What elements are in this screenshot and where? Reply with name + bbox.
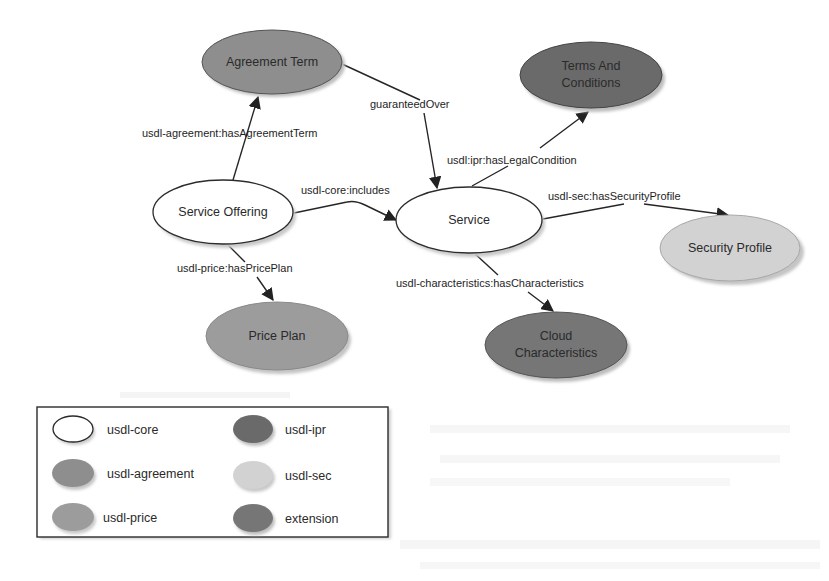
edge-label-has-agreement-term: usdl-agreement:hasAgreementTerm — [142, 127, 317, 139]
node-label-line1: Cloud — [540, 329, 573, 343]
edge-has-security-profile — [543, 204, 728, 219]
node-security-profile: Security Profile — [660, 215, 804, 285]
node-label: Price Plan — [249, 329, 306, 343]
legend-label: usdl-ipr — [285, 423, 326, 437]
edge-label-has-legal-condition: usdl:ipr:hasLegalCondition — [447, 154, 577, 166]
node-service-offering: Service Offering — [153, 180, 296, 248]
node-terms-and-conditions: Terms And Conditions — [520, 42, 665, 112]
node-label: Service — [448, 213, 490, 227]
node-label-line2: Characteristics — [515, 346, 598, 360]
node-label-line2: Conditions — [561, 76, 620, 90]
node-service: Service — [396, 187, 545, 257]
node-label: Agreement Term — [226, 55, 318, 69]
node-agreement-term: Agreement Term — [202, 30, 345, 97]
node-label-line1: Terms And — [561, 59, 620, 73]
legend-label: usdl-core — [107, 423, 158, 437]
edge-label-guaranteed-over: guaranteedOver — [370, 98, 450, 110]
edge-label-includes: usdl-core:includes — [301, 184, 390, 196]
service-model-diagram: usdl-agreement:hasAgreementTerm guarante… — [0, 0, 829, 581]
node-cloud-characteristics: Cloud Characteristics — [485, 312, 630, 382]
node-label: Security Profile — [688, 241, 772, 255]
legend-label: usdl-price — [103, 511, 157, 525]
edge-label-has-price-plan: usdl-price:hasPricePlan — [177, 262, 293, 274]
edge-label-has-security-profile: usdl-sec:hasSecurityProfile — [548, 190, 681, 202]
edge-has-legal-condition — [472, 112, 588, 186]
legend-label: usdl-agreement — [107, 467, 194, 481]
legend-label: usdl-sec — [285, 469, 332, 483]
edge-label-has-characteristics: usdl-characteristics:hasCharacteristics — [396, 277, 584, 289]
legend-label: extension — [285, 512, 339, 526]
edge-guaranteed-over — [342, 64, 437, 188]
node-label: Service Offering — [178, 205, 267, 219]
legend: usdl-core usdl-ipr usdl-agreement usdl-s… — [37, 407, 391, 539]
node-price-plan: Price Plan — [206, 302, 351, 374]
edge-includes — [294, 201, 396, 220]
